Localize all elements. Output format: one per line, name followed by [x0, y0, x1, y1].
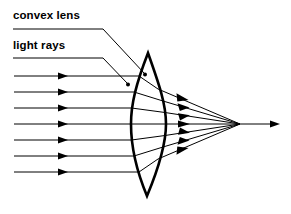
- light-rays-leader: [103, 58, 127, 83]
- incoming-arrowhead-3: [58, 104, 68, 111]
- exit-rays-group: [158, 89, 240, 159]
- internal-ray-1: [139, 76, 158, 89]
- exit-ray-7: [158, 124, 240, 159]
- exit-ray-6: [163, 124, 240, 147]
- exit-arrowhead-3: [178, 113, 190, 120]
- incoming-arrowhead-7: [58, 168, 68, 175]
- exit-ray-5: [165, 124, 240, 136]
- lens-diagram: convex lens light rays: [0, 0, 291, 214]
- convex-lens-leader-dot: [143, 73, 147, 77]
- exit-ray-2: [163, 101, 240, 124]
- incoming-ray-arrowheads: [58, 72, 68, 175]
- internal-ray-6: [134, 147, 163, 156]
- incoming-arrowhead-1: [58, 72, 68, 79]
- exit-ray-arrowheads: [177, 93, 191, 154]
- incoming-arrowhead-6: [58, 152, 68, 159]
- incoming-arrowhead-2: [58, 88, 68, 95]
- exit-arrowhead-6: [178, 137, 190, 145]
- exit-arrowhead-2: [178, 103, 190, 111]
- focal-axis-arrowhead: [270, 120, 280, 127]
- internal-ray-3: [132, 108, 166, 113]
- exit-arrowhead-1: [177, 93, 189, 101]
- convex-lens-label: convex lens: [13, 9, 80, 22]
- internal-ray-2: [134, 92, 163, 101]
- diagram-canvas: [0, 0, 291, 214]
- exit-arrowhead-4: [178, 120, 190, 127]
- exit-ray-3: [165, 113, 240, 125]
- incoming-rays-group: [14, 76, 139, 172]
- internal-ray-5: [132, 136, 166, 141]
- exit-ray-1: [158, 89, 240, 124]
- incoming-arrowhead-5: [58, 136, 68, 143]
- light-rays-label: light rays: [13, 39, 65, 52]
- convex-lens-leader: [103, 29, 144, 73]
- exit-arrowhead-5: [178, 128, 190, 135]
- internal-ray-7: [139, 159, 158, 172]
- incoming-arrowhead-4: [58, 120, 68, 127]
- exit-arrowhead-7: [177, 146, 189, 154]
- leader-lines-group: [13, 29, 144, 83]
- light-rays-leader-dot: [126, 83, 130, 87]
